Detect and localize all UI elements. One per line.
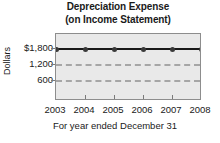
x-tick-2006 bbox=[143, 95, 144, 99]
series-line-depreciation-expense bbox=[56, 48, 200, 50]
x-tick-2007 bbox=[172, 95, 173, 99]
gridline-600 bbox=[56, 80, 200, 82]
x-tick-2004 bbox=[85, 95, 86, 99]
y-tick-label-600: 600 bbox=[13, 75, 53, 85]
data-point-2004 bbox=[83, 47, 88, 52]
data-point-2005 bbox=[112, 47, 117, 52]
x-tick-label-2008: 2008 bbox=[183, 104, 217, 115]
data-point-2007 bbox=[170, 47, 175, 52]
y-tick-label-1200: 1,200 bbox=[13, 59, 53, 69]
chart-title-line-2: (on Income Statement) bbox=[28, 14, 208, 27]
x-axis-title: For year ended December 31 bbox=[20, 120, 210, 131]
x-tick-2005 bbox=[114, 95, 115, 99]
gridline-1200 bbox=[56, 64, 200, 66]
data-point-2006 bbox=[141, 47, 146, 52]
chart-title-line-1: Depreciation Expense bbox=[28, 1, 208, 14]
y-tick-label-1800: $1,800 bbox=[13, 43, 53, 53]
chart-title: Depreciation Expense (on Income Statemen… bbox=[28, 1, 208, 26]
data-point-2008 bbox=[199, 47, 202, 52]
plot-area bbox=[55, 33, 201, 100]
data-point-2003 bbox=[55, 47, 59, 52]
chart-figure: Depreciation Expense (on Income Statemen… bbox=[0, 0, 220, 143]
